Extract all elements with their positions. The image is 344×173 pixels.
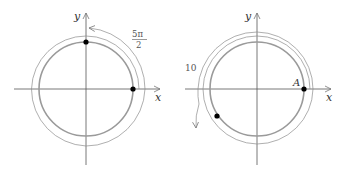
rotation-spiral-tail [196,104,199,128]
left-diagram: y x 5π 2 [14,10,162,165]
x-axis-label: x [155,91,162,104]
point-A-label: A [292,77,300,88]
y-axis-label: y [244,10,252,23]
right-diagram: y x A 10 [185,10,333,165]
end-point-third-quadrant [214,113,219,118]
angle-label-denominator: 2 [136,40,141,50]
unit-circle-diagrams: y x 5π 2 y x A 10 [0,0,344,173]
x-axis-label: x [326,91,333,104]
point-A [301,86,306,91]
start-point-x-axis [130,86,135,91]
angle-label: 10 [185,63,197,73]
end-point-y-axis [83,39,88,44]
rotation-spiral [31,28,145,146]
y-axis-label: y [73,10,81,23]
angle-label-numerator: 5π [132,29,143,39]
